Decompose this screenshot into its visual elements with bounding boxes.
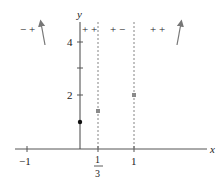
x-axis-label: x (209, 143, 215, 155)
filled-point-y-intercept (78, 120, 82, 124)
sign-label-region-3: + − (110, 23, 125, 35)
y-tick-label-2: 2 (67, 89, 73, 101)
x-tick-label-1: 1 (131, 155, 137, 167)
x-tick-label-third-den: 3 (95, 168, 100, 179)
square-point-one (132, 93, 136, 97)
x-axis: x (15, 57, 215, 155)
y-ticks: 4 2 (67, 36, 83, 101)
sign-label-region-2: + + (82, 23, 97, 35)
sign-label-region-4: + + (150, 23, 165, 35)
x-ticks: −1 1 3 1 (19, 146, 137, 179)
x-tick-label-neg1: −1 (19, 155, 31, 167)
y-tick-label-4: 4 (67, 36, 73, 48)
sign-chart-diagram: x y −1 1 3 1 4 2 − + + + + − + + (0, 0, 221, 184)
sign-label-region-1: − + (20, 23, 35, 35)
x-tick-label-third-num: 1 (95, 154, 100, 165)
square-point-third (96, 109, 100, 113)
y-axis-label: y (76, 8, 82, 20)
arrow-up-left-region (41, 23, 45, 45)
arrow-up-right-region (177, 23, 181, 45)
